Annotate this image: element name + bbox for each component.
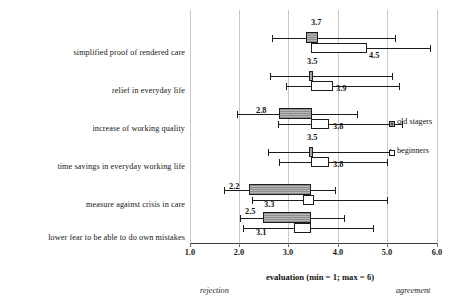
x-tick-label: 4.0	[318, 248, 358, 257]
x-tick-label: 1.0	[170, 248, 210, 257]
x-tick	[437, 243, 438, 247]
value-label-beg-4: 3.8	[333, 160, 343, 169]
x-tick-label: 3.0	[268, 248, 308, 257]
bar-old-stagers-5	[249, 184, 311, 195]
error-bar-cap	[279, 159, 280, 166]
x-tick	[288, 243, 289, 247]
error-bar-old-2	[270, 76, 392, 77]
x-tick-label: 2.0	[219, 248, 259, 257]
error-bar-cap	[399, 83, 400, 90]
error-bar-cap	[240, 215, 241, 222]
bar-beginners-5	[303, 195, 314, 205]
bar-beginners-3	[311, 119, 329, 129]
error-bar-cap	[335, 187, 336, 194]
value-label-old-6: 2.5	[245, 207, 255, 216]
error-bar-cap	[286, 83, 287, 90]
category-label: time savings in everyday working life	[10, 162, 185, 171]
error-bar-cap	[373, 225, 374, 232]
error-bar-cap	[268, 149, 269, 156]
category-label: increase of working quality	[10, 124, 185, 133]
value-label-old-4: 3.5	[307, 133, 317, 142]
error-bar-beg-1	[367, 48, 430, 49]
legend-connector-beg	[345, 162, 386, 163]
bar-beginners-1	[311, 43, 367, 53]
error-bar-cap	[395, 35, 396, 42]
value-label-beg-6: 3.1	[256, 228, 266, 237]
x-tick-label: 5.0	[367, 248, 407, 257]
value-label-old-5: 2.2	[229, 182, 239, 191]
error-bar-cap	[243, 225, 244, 232]
error-bar-cap	[270, 73, 271, 80]
annotation-rejection: rejection	[200, 286, 229, 295]
value-label-beg-2: 3.9	[336, 84, 346, 93]
gridline	[437, 10, 438, 243]
bar-old-stagers-4	[309, 147, 313, 157]
value-label-beg-5: 3.3	[264, 200, 274, 209]
error-bar-cap	[344, 215, 345, 222]
value-label-beg-1: 4.5	[369, 51, 379, 60]
x-tick	[387, 243, 388, 247]
legend-swatch-old-stagers-icon	[389, 121, 395, 127]
value-label-old-1: 3.7	[311, 18, 321, 27]
legend-swatch-beginners-icon	[389, 150, 395, 156]
legend-label-beginners: beginners	[397, 146, 429, 155]
gridline	[239, 10, 240, 243]
bar-chart: simplified proof of rendered care relief…	[0, 0, 465, 307]
x-axis-title: evaluation (min = 1; max = 6)	[205, 272, 435, 282]
bar-old-stagers-1	[306, 32, 318, 43]
bar-beginners-2	[311, 81, 333, 91]
category-label: lower fear to be able to do own mistakes	[2, 233, 185, 242]
category-label: measure against crisis in care	[10, 200, 185, 209]
value-label-beg-3: 3.8	[333, 122, 343, 131]
category-label: relief in everyday life	[10, 86, 185, 95]
error-bar-cap	[237, 111, 238, 118]
error-bar-cap	[430, 45, 431, 52]
gridline	[190, 10, 191, 243]
error-bar-cap	[224, 187, 225, 194]
category-label: simplified proof of rendered care	[10, 48, 185, 57]
error-bar-cap	[357, 111, 358, 118]
x-tick	[338, 243, 339, 247]
error-bar-cap	[387, 159, 388, 166]
value-label-old-3: 2.8	[256, 106, 266, 115]
error-bar-cap	[272, 35, 273, 42]
annotation-agreement: agreement	[396, 286, 430, 295]
error-bar-cap	[278, 121, 279, 128]
legend-connector-old	[345, 124, 386, 125]
error-bar-old-4	[268, 152, 390, 153]
bar-beginners-4	[311, 157, 329, 167]
bar-beginners-6	[294, 223, 311, 233]
gridline	[387, 10, 388, 243]
bar-old-stagers-3	[279, 108, 312, 119]
value-label-old-2: 3.5	[307, 57, 317, 66]
legend-label-old-stagers: old stagers	[397, 117, 432, 126]
x-axis-line	[190, 243, 438, 244]
x-tick	[190, 243, 191, 247]
x-tick-label: 6.0	[417, 248, 457, 257]
x-tick	[239, 243, 240, 247]
error-bar-cap	[252, 197, 253, 204]
error-bar-old-1	[272, 38, 395, 39]
gridline	[288, 10, 289, 243]
error-bar-cap	[392, 73, 393, 80]
bar-old-stagers-6	[263, 212, 311, 223]
error-bar-cap	[387, 197, 388, 204]
bar-old-stagers-2	[309, 71, 313, 81]
